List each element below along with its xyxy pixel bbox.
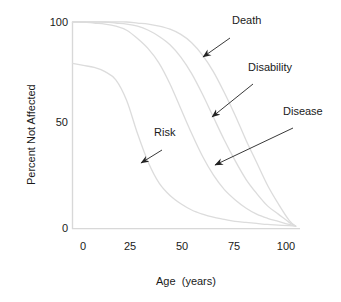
annotation-arrow-disability [212, 84, 253, 117]
x-axis-title: Age (years) [126, 275, 246, 287]
xtick-label-25: 25 [115, 240, 145, 252]
axes-group [72, 22, 300, 229]
ytick-label-100: 100 [34, 16, 68, 28]
curve-risk [73, 63, 296, 226]
y-axis-title: Percent Not Affected [25, 84, 37, 185]
annotation-label-death: Death [232, 14, 261, 26]
annotation-arrow-disease [215, 128, 293, 165]
annotation-arrow-death [203, 38, 230, 57]
chart-container: 100 50 0 0 25 50 75 100 Percent Not Affe… [0, 0, 341, 302]
annotation-arrows-group [141, 38, 293, 165]
annotation-label-risk: Risk [154, 126, 175, 138]
curve-disease [73, 22, 296, 226]
data-curves-group [73, 22, 296, 226]
curve-disability [73, 22, 296, 226]
xtick-label-0: 0 [68, 240, 98, 252]
curve-death [73, 22, 296, 226]
ytick-label-0: 0 [34, 222, 68, 234]
ytick-label-50: 50 [34, 116, 68, 128]
xtick-label-50: 50 [167, 240, 197, 252]
xtick-label-100: 100 [271, 240, 301, 252]
chart-plot-area [0, 0, 341, 302]
annotation-label-disease: Disease [283, 105, 323, 117]
annotation-label-disability: Disability [248, 61, 292, 73]
xtick-label-75: 75 [219, 240, 249, 252]
